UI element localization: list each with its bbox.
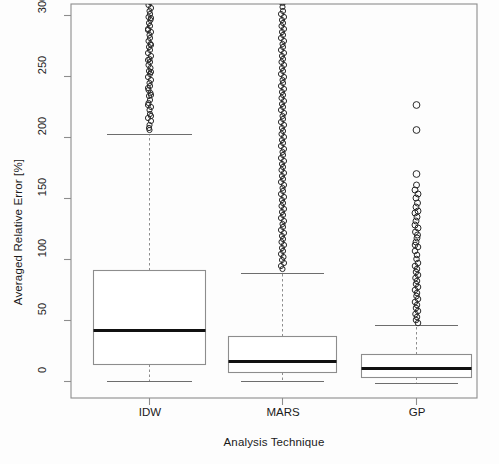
x-axis-title: Analysis Technique [71,436,477,448]
y-tick-label-150: 150 [36,167,48,207]
y-tick-label-300: 300 [36,0,48,24]
box-gp [362,102,472,384]
boxplot-figure: 0 50 100 150 200 250 300 IDW MARS GP Ave… [0,0,499,464]
y-tick-label-0: 0 [36,350,48,390]
outliers-gp [412,102,421,326]
x-tick-label-idw: IDW [105,406,195,418]
y-tick-label-50: 50 [36,289,48,329]
y-tick-label-250: 250 [36,45,48,85]
box-idw [94,0,206,382]
x-tick-label-mars: MARS [238,406,328,418]
plot-canvas [0,0,499,464]
y-tick-label-100: 100 [36,228,48,268]
x-axis-ticks [150,398,417,405]
x-tick-label-gp: GP [372,406,462,418]
y-tick-label-200: 200 [36,106,48,146]
y-axis-ticks [64,16,71,382]
outliers-idw [145,0,153,133]
outliers-mars [278,0,286,272]
box-mars [229,0,337,381]
